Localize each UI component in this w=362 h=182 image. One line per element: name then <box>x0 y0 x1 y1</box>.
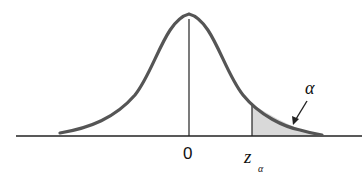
normal-curve <box>60 14 322 135</box>
critical-value-label: z <box>244 146 251 168</box>
arrow-head-icon <box>292 116 299 125</box>
normal-distribution-diagram: 0 z α α <box>0 0 362 182</box>
tail-area-label: α <box>305 78 314 99</box>
tail-shaded-area <box>252 104 322 136</box>
center-label: 0 <box>183 144 192 164</box>
alpha-arrow <box>296 101 307 119</box>
critical-value-subscript: α <box>258 163 263 174</box>
